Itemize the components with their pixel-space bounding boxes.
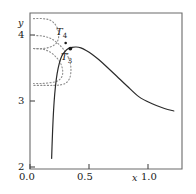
- x-axis-label: x: [132, 173, 137, 183]
- y-axis-label: y: [18, 18, 23, 28]
- t4-point-marker: [64, 42, 67, 45]
- y-tick-label-3: 3: [18, 96, 24, 106]
- t3-subscript: 3: [68, 57, 72, 65]
- y-tick-label-4: 4: [18, 30, 24, 40]
- t4-subscript: 4: [63, 32, 67, 40]
- chart-figure: y 4 3 2 0.0 0.5 1.0 x T4 T3: [0, 0, 196, 194]
- t3-base: T: [61, 51, 68, 62]
- x-tick-label-1: 0.5: [77, 172, 93, 182]
- isotherm-label-t3: T3: [61, 52, 72, 65]
- x-tick-label-2: 1.0: [141, 172, 157, 182]
- x-tick-label-0: 0.0: [19, 172, 35, 182]
- t4-base: T: [56, 26, 63, 37]
- isotherm-label-t4: T4: [56, 27, 67, 40]
- t3-point-marker: [68, 47, 72, 51]
- plot-canvas: [0, 0, 196, 194]
- plot-background: [0, 0, 196, 194]
